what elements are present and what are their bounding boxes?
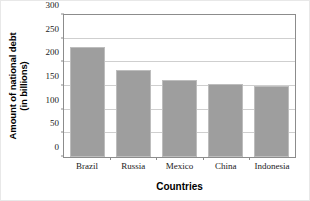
x-tick-label: China — [203, 161, 249, 171]
x-tick-label: Mexico — [156, 161, 202, 171]
y-axis-title: Amount of national debt (in billions) — [1, 1, 35, 171]
x-tick-label: Brazil — [64, 161, 110, 171]
x-tick-mark — [110, 157, 111, 160]
bar — [70, 47, 105, 157]
y-tick-label: 300 — [46, 0, 60, 10]
bar — [162, 80, 197, 157]
y-tick-label: 50 — [50, 118, 59, 128]
bar-slot: Brazil — [64, 15, 110, 157]
bar-slot: Mexico — [156, 15, 202, 157]
x-tick-mark — [156, 157, 157, 160]
bar-series: BrazilRussiaMexicoChinaIndonesia — [64, 15, 295, 157]
y-tick-label: 150 — [46, 71, 60, 81]
bar-slot: Indonesia — [249, 15, 295, 157]
x-tick-mark — [249, 157, 250, 160]
bar — [208, 84, 243, 157]
bar-chart-figure: Amount of national debt (in billions) 05… — [0, 0, 310, 201]
y-tick-label: 0 — [55, 142, 60, 152]
bar — [254, 86, 289, 157]
y-tick-label: 200 — [46, 47, 60, 57]
x-tick-mark — [203, 157, 204, 160]
x-axis-title: Countries — [63, 181, 296, 192]
y-tick-label: 250 — [46, 24, 60, 34]
bar — [116, 70, 151, 157]
x-tick-label: Russia — [110, 161, 156, 171]
y-axis-title-line2: (in billions) — [18, 33, 29, 140]
x-tick-label: Indonesia — [249, 161, 295, 171]
y-axis-title-line1: Amount of national debt — [7, 33, 18, 140]
bar-slot: China — [203, 15, 249, 157]
y-tick-label: 100 — [46, 95, 60, 105]
bar-slot: Russia — [110, 15, 156, 157]
plot-area: 050100150200250300 BrazilRussiaMexicoChi… — [63, 14, 296, 158]
